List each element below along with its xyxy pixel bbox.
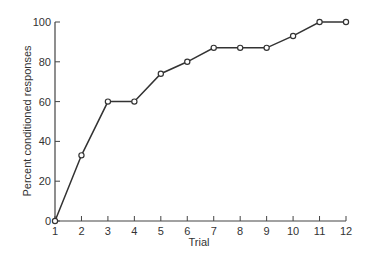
data-point-marker	[290, 33, 295, 38]
y-tick-label: 60	[39, 96, 51, 108]
data-point-marker	[132, 99, 137, 104]
y-tick-label: 80	[39, 56, 51, 68]
y-tick-label: 20	[39, 175, 51, 187]
x-tick-label: 3	[105, 225, 111, 237]
data-point-marker	[52, 218, 57, 223]
y-tick-label: 100	[33, 16, 51, 28]
data-point-marker	[238, 45, 243, 50]
data-point-marker	[317, 19, 322, 24]
x-tick-label: 12	[340, 225, 352, 237]
x-tick-label: 2	[78, 225, 84, 237]
x-tick-label: 8	[237, 225, 243, 237]
line-chart: 020406080100 123456789101112 Percent con…	[0, 0, 367, 261]
data-point-marker	[105, 99, 110, 104]
x-tick-label: 4	[131, 225, 137, 237]
x-axis-title: Trial	[189, 236, 210, 248]
x-tick-label: 11	[314, 225, 325, 237]
x-tick-label: 9	[264, 225, 270, 237]
data-point-marker	[264, 45, 269, 50]
data-point-marker	[211, 45, 216, 50]
data-point-marker	[343, 19, 348, 24]
data-point-marker	[79, 153, 84, 158]
y-axis: 020406080100	[33, 16, 60, 227]
x-tick-label: 5	[158, 225, 164, 237]
data-point-marker	[158, 71, 163, 76]
x-tick-label: 7	[211, 225, 217, 237]
y-axis-title: Percent conditioned responses	[21, 45, 33, 197]
y-tick-label: 0	[45, 215, 51, 227]
x-axis: 123456789101112	[52, 216, 352, 237]
plot-area	[52, 19, 348, 223]
y-tick-label: 40	[39, 135, 51, 147]
series-line	[55, 22, 346, 221]
x-tick-label: 1	[52, 225, 58, 237]
data-point-marker	[185, 59, 190, 64]
x-tick-label: 10	[287, 225, 299, 237]
